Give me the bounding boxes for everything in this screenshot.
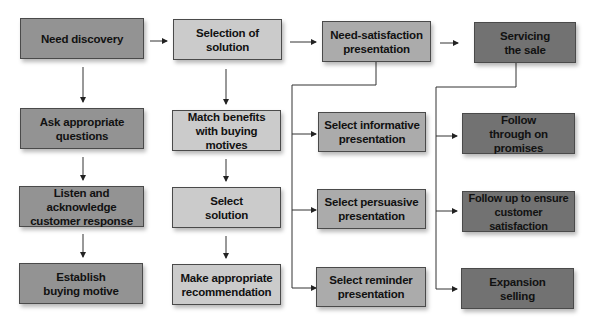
node-label: Need-satisfaction presentation — [327, 28, 426, 56]
node-label: Servicing the sale — [479, 29, 571, 57]
node-label: Select informative presentation — [323, 118, 421, 146]
node-label: Make appropriate recommendation — [177, 271, 276, 299]
node-label: Ask appropriate questions — [25, 115, 139, 143]
node-label: Selection of solution — [178, 26, 277, 54]
node-label: Expansion selling — [466, 275, 569, 303]
node-need-satisfaction-presentation: Need-satisfaction presentation — [322, 21, 431, 62]
node-label: Listen and acknowledge customer response — [24, 186, 139, 228]
node-label: Match benefits with buying motives — [177, 110, 276, 152]
node-follow-up: Follow up to ensure customer satisfactio… — [462, 191, 575, 232]
node-make-appropriate-recommendation: Make appropriate recommendation — [172, 264, 281, 305]
node-establish-buying-motive: Establish buying motive — [19, 263, 143, 304]
node-follow-through: Follow through on promises — [462, 113, 575, 154]
node-label: Need discovery — [41, 32, 123, 46]
node-need-discovery: Need discovery — [20, 18, 144, 59]
node-select-reminder: Select reminder presentation — [316, 267, 426, 307]
node-servicing-the-sale: Servicing the sale — [474, 22, 576, 63]
node-listen-and-acknowledge: Listen and acknowledge customer response — [19, 186, 144, 227]
node-selection-of-solution: Selection of solution — [173, 19, 282, 60]
node-label: Follow up to ensure customer satisfactio… — [467, 191, 570, 233]
node-select-persuasive: Select persuasive presentation — [317, 189, 426, 229]
node-match-benefits: Match benefits with buying motives — [172, 110, 281, 151]
node-label: Select persuasive presentation — [322, 195, 421, 223]
node-label: Select solution — [177, 194, 276, 222]
node-label: Select reminder presentation — [321, 273, 421, 301]
node-label: Follow through on promises — [467, 113, 570, 155]
node-select-informative: Select informative presentation — [318, 112, 426, 152]
node-ask-appropriate-questions: Ask appropriate questions — [20, 108, 144, 149]
node-select-solution: Select solution — [172, 187, 281, 228]
node-label: Establish buying motive — [24, 270, 138, 298]
node-expansion-selling: Expansion selling — [461, 268, 574, 309]
